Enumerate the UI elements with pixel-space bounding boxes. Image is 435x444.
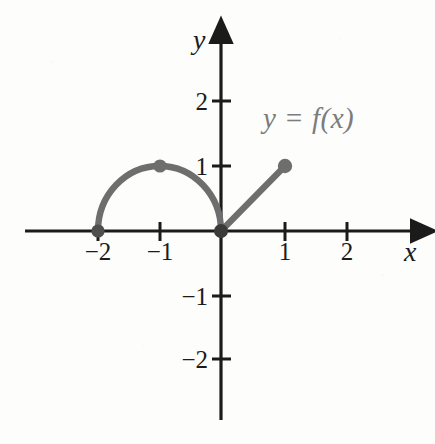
graph-figure: −2 −1 1 2 2 1 −1 −2 x y y = f(x) — [0, 0, 435, 444]
point-left-endpoint — [91, 224, 104, 237]
y-tick-label-pos1: 1 — [160, 154, 208, 179]
y-tick-label-pos2: 2 — [160, 89, 208, 114]
function-label: y = f(x) — [263, 104, 354, 133]
x-tick-label-pos1: 1 — [279, 239, 292, 264]
linear-branch — [221, 166, 285, 231]
x-tick-label-pos2: 2 — [341, 239, 354, 264]
y-tick-label-neg2: −2 — [150, 347, 208, 372]
point-right-endpoint — [278, 159, 292, 173]
x-tick-label-neg1: −1 — [147, 239, 174, 264]
x-tick-label-neg2: −2 — [85, 239, 112, 264]
y-axis-label: y — [193, 26, 205, 54]
coordinate-plot — [0, 0, 435, 444]
point-origin-junction — [214, 224, 228, 238]
y-tick-label-neg1: −1 — [150, 284, 208, 309]
x-axis-label: x — [404, 238, 416, 266]
